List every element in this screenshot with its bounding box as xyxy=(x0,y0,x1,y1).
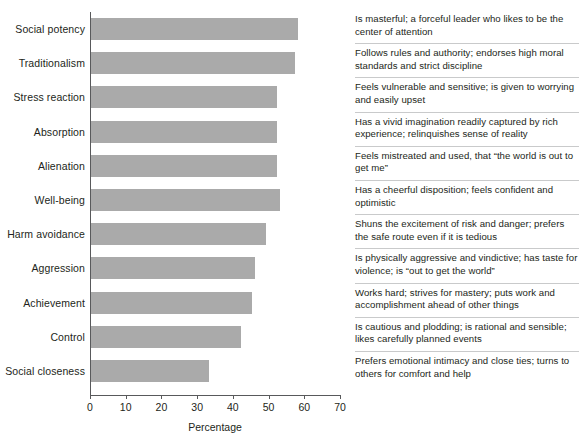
row-separator xyxy=(355,146,579,147)
x-tick-label: 30 xyxy=(191,401,203,413)
category-label: Control xyxy=(0,332,85,343)
x-tick-label: 40 xyxy=(227,401,239,413)
x-tick xyxy=(126,395,127,399)
description-text: Is cautious and plodding; is rational an… xyxy=(355,321,579,346)
row-separator xyxy=(355,283,579,284)
x-tick xyxy=(269,395,270,399)
plot-area: 010203040506070 xyxy=(90,0,340,400)
bar xyxy=(91,121,277,143)
bar xyxy=(91,223,266,245)
category-label: Achievement xyxy=(0,298,85,309)
personality-traits-bar-chart: Social potencyTraditionalismStress react… xyxy=(0,0,579,444)
row-separator xyxy=(355,77,579,78)
bar xyxy=(91,86,277,108)
bar xyxy=(91,52,295,74)
row-separator xyxy=(355,317,579,318)
row-separator xyxy=(355,214,579,215)
category-label-column: Social potencyTraditionalismStress react… xyxy=(0,0,85,444)
description-row: Has a vivid imagination readily captured… xyxy=(355,112,579,146)
x-tick-label: 20 xyxy=(156,401,168,413)
row-separator xyxy=(355,180,579,181)
category-label: Alienation xyxy=(0,161,85,172)
x-tick-label: 50 xyxy=(263,401,275,413)
bar xyxy=(91,18,298,40)
category-label: Social potency xyxy=(0,24,85,35)
description-text: Is physically aggressive and vindictive;… xyxy=(355,252,579,277)
bar xyxy=(91,257,255,279)
x-tick xyxy=(340,395,341,399)
category-label: Absorption xyxy=(0,127,85,138)
row-separator xyxy=(355,43,579,44)
x-tick xyxy=(197,395,198,399)
description-text: Prefers emotional intimacy and close tie… xyxy=(355,355,579,380)
row-separator xyxy=(355,112,579,113)
bar xyxy=(91,189,280,211)
description-row: Has a cheerful disposition; feels confid… xyxy=(355,180,579,214)
description-text: Has a cheerful disposition; feels confid… xyxy=(355,184,579,209)
x-tick-label: 0 xyxy=(87,401,93,413)
description-text: Has a vivid imagination readily captured… xyxy=(355,116,579,141)
description-row: Works hard; strives for mastery; puts wo… xyxy=(355,283,579,317)
description-row: Is physically aggressive and vindictive;… xyxy=(355,248,579,282)
description-row: Shuns the excitement of risk and danger;… xyxy=(355,214,579,248)
description-text: Shuns the excitement of risk and danger;… xyxy=(355,218,579,243)
category-label: Well-being xyxy=(0,195,85,206)
description-row: Prefers emotional intimacy and close tie… xyxy=(355,351,579,385)
bar xyxy=(91,360,209,382)
x-tick xyxy=(233,395,234,399)
description-text: Is masterful; a forceful leader who like… xyxy=(355,13,579,38)
description-text: Follows rules and authority; endorses hi… xyxy=(355,47,579,72)
row-separator xyxy=(355,351,579,352)
category-label: Harm avoidance xyxy=(0,229,85,240)
x-axis-title: Percentage xyxy=(90,421,340,433)
bar xyxy=(91,326,241,348)
description-text: Feels mistreated and used, that “the wor… xyxy=(355,150,579,175)
row-separator xyxy=(355,248,579,249)
x-tick xyxy=(304,395,305,399)
description-row: Follows rules and authority; endorses hi… xyxy=(355,43,579,77)
description-row: Feels mistreated and used, that “the wor… xyxy=(355,146,579,180)
description-row: Is masterful; a forceful leader who like… xyxy=(355,9,579,43)
x-tick-label: 70 xyxy=(334,401,346,413)
x-tick-label: 60 xyxy=(298,401,310,413)
x-tick-label: 10 xyxy=(120,401,132,413)
description-column: Is masterful; a forceful leader who like… xyxy=(355,0,579,410)
category-label: Stress reaction xyxy=(0,92,85,103)
category-label: Traditionalism xyxy=(0,58,85,69)
description-row: Is cautious and plodding; is rational an… xyxy=(355,317,579,351)
x-axis-line xyxy=(90,395,340,396)
bar xyxy=(91,292,252,314)
bar xyxy=(91,155,277,177)
x-tick xyxy=(161,395,162,399)
category-label: Aggression xyxy=(0,263,85,274)
description-row: Feels vulnerable and sensitive; is given… xyxy=(355,77,579,111)
description-text: Works hard; strives for mastery; puts wo… xyxy=(355,287,579,312)
description-text: Feels vulnerable and sensitive; is given… xyxy=(355,81,579,106)
category-label: Social closeness xyxy=(0,366,85,377)
x-tick xyxy=(90,395,91,399)
